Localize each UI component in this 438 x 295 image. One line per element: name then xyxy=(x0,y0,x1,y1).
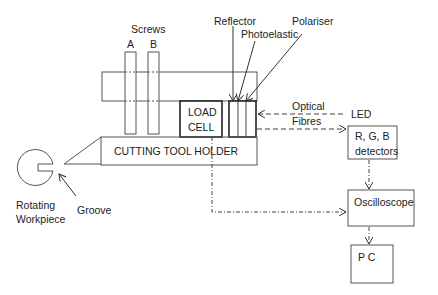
screw-b-label: B xyxy=(150,38,157,50)
photoelastic-arrow xyxy=(238,41,255,101)
cutting-tool-holder-label: CUTTING TOOL HOLDER xyxy=(114,145,238,158)
rotating-label: Rotating xyxy=(16,199,55,211)
optical-stack xyxy=(229,101,256,137)
detectors-label-line2: detectors xyxy=(355,145,398,158)
oscilloscope-label: Oscilloscope xyxy=(354,196,414,209)
workpiece-label: Workpiece xyxy=(16,213,65,225)
rotating-workpiece xyxy=(17,150,53,186)
screw-b xyxy=(148,52,159,134)
reflector-label: Reflector xyxy=(214,15,256,27)
optical-label: Optical xyxy=(292,100,325,112)
polariser-label: Polariser xyxy=(292,15,333,27)
photoelastic-label: Photoelastic xyxy=(241,28,298,40)
screw-a-label: A xyxy=(127,38,134,50)
groove-arrow xyxy=(59,174,76,196)
screws-label: Screws xyxy=(131,23,165,35)
fibres-label: Fibres xyxy=(292,115,321,127)
load-cell-label-line2: CELL xyxy=(188,121,214,134)
led-label: LED xyxy=(351,108,371,120)
groove-label: Groove xyxy=(77,204,111,216)
pc-label: P C xyxy=(358,251,375,264)
load-cell-label-line1: LOAD xyxy=(188,106,217,119)
detectors-label-line1: R, G, B xyxy=(355,130,389,143)
screw-a xyxy=(125,52,136,134)
